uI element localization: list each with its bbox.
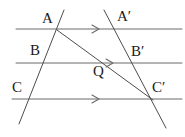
point-label-c: C [12,80,22,95]
point-label-c-prime: C′ [152,80,165,95]
geometry-figure: A B C A′ B′ C′ Q [0,0,185,137]
point-label-a: A [42,11,53,26]
point-label-q: Q [93,64,104,79]
point-label-b: B [30,43,40,58]
right-transversal-ABC-prime [104,10,166,128]
left-transversal-ABC [19,10,64,124]
diagonal-A-to-C-prime [57,30,153,100]
point-label-b-prime: B′ [131,44,144,59]
diagonal-group [57,30,153,100]
point-label-a-prime: A′ [117,9,131,24]
